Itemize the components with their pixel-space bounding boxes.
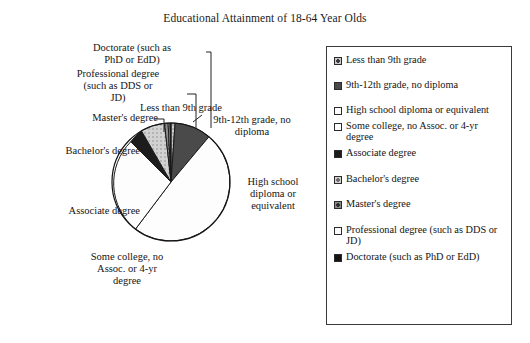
legend-item-9th-12th-grade: 9th-12th grade, no diploma	[334, 79, 505, 91]
legend-swatch-professional-degree-icon	[334, 227, 342, 235]
legend-label: Less than 9th grade	[346, 54, 426, 66]
pie-label-associate: Associate degree	[10, 205, 140, 217]
legend-item-doctorate: Doctorate (such as PhD or EdD)	[334, 251, 505, 263]
pie-chart-area: Doctorate (such as PhD or EdD) Professio…	[0, 0, 320, 343]
pie-label-less-than-9th: Less than 9th grade	[140, 102, 258, 114]
legend-item-professional-degree: Professional degree (such as DDS or JD)	[334, 224, 505, 247]
legend-swatch-masters-degree-icon	[334, 201, 342, 209]
legend-item-high-school-diploma: High school diploma or equivalent	[334, 104, 505, 116]
pie-label-professional: Professional degree (such as DDS or JD)	[48, 68, 188, 103]
legend-label: 9th-12th grade, no diploma	[346, 79, 458, 91]
pie-label-9th-12th: 9th-12th grade, no diploma	[196, 114, 308, 138]
legend-label: Bachelor's degree	[346, 173, 419, 185]
legend-item-less-than-9th-grade: Less than 9th grade	[334, 54, 505, 66]
legend-label: Professional degree (such as DDS or JD)	[346, 224, 505, 247]
legend-swatch-associate-degree-icon	[334, 150, 342, 158]
legend-label: Master's degree	[346, 198, 410, 210]
pie-chart-page: Educational Attainment of 18-64 Year Old…	[0, 0, 530, 343]
legend-label: Doctorate (such as PhD or EdD)	[346, 251, 480, 263]
pie-label-bachelors: Bachelor's degree	[12, 145, 140, 157]
legend-item-associate-degree: Associate degree	[334, 147, 505, 159]
legend-item-some-college: Some college, no Assoc. or 4-yr degree	[334, 120, 505, 143]
legend-label: Associate degree	[346, 147, 416, 159]
legend-swatch-9th-12th-grade-icon	[334, 82, 342, 90]
legend-label: High school diploma or equivalent	[346, 104, 489, 116]
legend-box: Less than 9th grade 9th-12th grade, no d…	[326, 46, 512, 325]
legend-swatch-some-college-icon	[334, 123, 342, 131]
legend-item-bachelors-degree: Bachelor's degree	[334, 173, 505, 185]
legend-swatch-high-school-diploma-icon	[334, 107, 342, 115]
legend-label: Some college, no Assoc. or 4-yr degree	[346, 120, 505, 143]
legend-item-masters-degree: Master's degree	[334, 198, 505, 210]
pie-label-high-school: High school diploma or equivalent	[230, 176, 316, 211]
pie-label-some-college: Some college, no Assoc. or 4-yr degree	[58, 251, 196, 286]
legend-swatch-doctorate-icon	[334, 254, 342, 262]
legend-swatch-bachelors-degree-icon	[334, 176, 342, 184]
legend-swatch-less-than-9th-grade-icon	[334, 57, 342, 65]
pie-label-doctorate: Doctorate (such as PhD or EdD)	[58, 42, 206, 66]
